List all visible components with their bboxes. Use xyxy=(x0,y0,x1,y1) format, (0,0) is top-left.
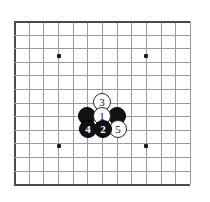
grid-line-horizontal-3 xyxy=(14,62,190,63)
stone-label: 5 xyxy=(115,124,121,135)
grid-line-horizontal-11 xyxy=(14,171,190,172)
grid-line-horizontal-10 xyxy=(14,157,190,158)
grid-line-bottom-edge xyxy=(14,184,190,186)
grid-line-horizontal-0 xyxy=(14,21,190,23)
star-top-right xyxy=(144,54,148,58)
star-top-left xyxy=(57,54,61,58)
stone-label: 4 xyxy=(85,124,91,135)
star-bottom-left xyxy=(57,144,61,148)
go-board-diagram: 31425 xyxy=(0,0,210,202)
grid-line-horizontal-9 xyxy=(14,143,190,144)
grid-line-horizontal-2 xyxy=(14,48,190,49)
star-bottom-right xyxy=(144,144,148,148)
grid-line-horizontal-1 xyxy=(14,35,190,36)
grid-line-horizontal-5 xyxy=(14,89,190,90)
stone-black-2[interactable]: 2 xyxy=(94,120,112,138)
stone-label: 2 xyxy=(100,124,106,135)
grid-line-horizontal-4 xyxy=(14,75,190,76)
stone-label: 3 xyxy=(99,97,105,108)
grid-line-vertical-12 xyxy=(190,21,191,184)
